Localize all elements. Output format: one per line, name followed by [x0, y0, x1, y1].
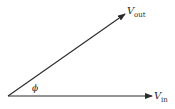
svg-text:out: out	[134, 11, 146, 19]
phasor-diagram: ϕ V out V in	[0, 0, 175, 109]
vout-label: V out	[127, 5, 146, 19]
svg-text:in: in	[161, 96, 168, 104]
vin-label: V in	[154, 90, 168, 104]
phi-angle-label: ϕ	[32, 83, 38, 93]
vout-vector-arrow	[8, 14, 125, 96]
